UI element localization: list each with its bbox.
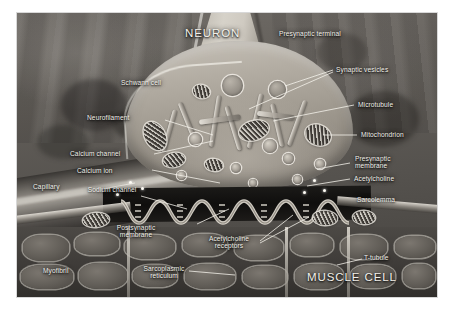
synaptic-vesicle [315,159,325,169]
myofibril [185,264,235,289]
myofibril [395,236,435,258]
myofibril [23,235,69,261]
label-sarcoplasmic-reticulum: Sarcoplasmic reticulum [137,265,191,280]
synaptic-vesicle [177,171,186,180]
myofibril [243,266,287,288]
label-postsynaptic-membrane: Postsynaptic membrane [109,224,163,239]
calcium-ion-dot [141,187,144,190]
label-schwann-cell: Schwann cell [121,79,161,86]
tissue-mottle [347,91,419,147]
label-mitochondrion: Mitochondrion [361,131,404,138]
synaptic-vesicle [189,133,202,146]
micrograph-plate: NEURON MUSCLE CELL Presynaptic terminal … [17,13,437,297]
synaptic-vesicle [222,75,243,96]
t-tubule [347,227,350,297]
label-presynaptic-membrane: Presynaptic membrane [355,155,409,170]
label-calcium-channel: Calcium channel [70,150,120,157]
label-neurofilament: Neurofilament [87,114,129,121]
label-capillary: Capillary [33,183,60,190]
label-calcium-ion: Calcium ion [77,167,113,174]
acetylcholine-dot [323,189,326,192]
synaptic-vesicle [293,175,302,184]
synaptic-vesicle [269,81,286,98]
label-t-tubule: T-tubule [364,254,389,261]
label-presynaptic-terminal: Presynaptic terminal [279,30,341,37]
acetylcholine-dot [303,191,306,194]
label-sarcolemma: Sarcolemma [357,196,395,203]
synaptic-vesicle [263,139,277,153]
label-acetylcholine-receptors: Acetylcholine receptors [202,235,256,250]
heading-muscle-cell: MUSCLE CELL [307,271,397,284]
acetylcholine-dot [313,179,316,182]
label-microtubule: Microtubule [358,101,393,108]
neuromuscular-junction-figure: NEURON MUSCLE CELL Presynaptic terminal … [0,0,453,317]
label-synaptic-vesicles: Synaptic vesicles [336,66,388,73]
label-acetylcholine: Acetylcholine [354,175,394,182]
myofibril [291,234,333,256]
calcium-ion-dot [116,193,119,196]
calcium-ion-dot [129,181,132,184]
label-myofibril: Myofibril [43,267,68,274]
myofibril [79,263,127,289]
heading-neuron: NEURON [185,27,240,40]
myofibril [403,264,435,288]
label-sodium-channel: Sodium channel [85,186,139,193]
t-tubule [285,227,288,297]
synaptic-vesicle [283,153,294,164]
synaptic-vesicle [231,163,241,173]
